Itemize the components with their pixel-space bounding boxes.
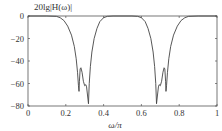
x-axis-label: ω/π [108,120,122,130]
x-tick-label: 1 [215,108,219,118]
magnitude-response-chart: 0−20−40−60−80 00.20.40.60.81 20lg|H(ω)| … [0,0,222,131]
y-tick-label: −80 [11,101,24,111]
magnitude-curve [28,16,217,104]
x-tick-label: 0.4 [98,108,109,118]
x-tick-label: 0.8 [174,108,185,118]
x-tick-label: 0 [26,108,30,118]
y-tick-label: −60 [11,79,24,89]
y-tick-label: −20 [11,34,24,44]
plot-frame [28,16,217,106]
x-tick-label: 0.2 [60,108,71,118]
x-tick-label: 0.6 [136,108,147,118]
y-tick-label: 0 [20,11,24,21]
y-axis-ticks: 0−20−40−60−80 [11,11,217,111]
y-axis-label: 20lg|H(ω)| [34,2,72,12]
y-tick-label: −40 [11,56,24,66]
axes-frame [28,16,217,106]
x-axis-ticks: 00.20.40.60.81 [26,16,219,118]
